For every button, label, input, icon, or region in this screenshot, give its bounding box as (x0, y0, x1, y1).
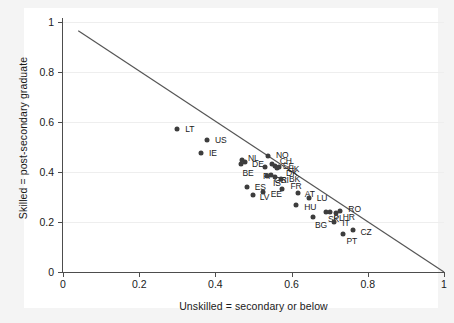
data-point[interactable] (175, 127, 180, 132)
data-point-label: IT (342, 218, 349, 228)
data-point[interactable] (306, 195, 311, 200)
y-tick-label: 0.4 (39, 166, 54, 178)
data-point-label: BE (243, 168, 254, 178)
data-point[interactable] (262, 165, 267, 170)
data-point[interactable] (310, 214, 315, 219)
data-point-label: LT (185, 124, 194, 134)
data-point[interactable] (244, 184, 249, 189)
x-tick (444, 273, 445, 277)
x-tick-label: 0.4 (208, 278, 223, 290)
chart-figure: Skilled = post-secondary graduate Unskil… (0, 0, 454, 323)
y-axis-title: Skilled = post-secondary graduate (17, 23, 29, 253)
plot-area: 00.20.40.60.81 00.20.40.60.81 LTUSIENONL… (63, 22, 444, 272)
data-point-label: BG (315, 220, 327, 230)
x-tick (139, 273, 140, 277)
regression-line (63, 22, 444, 272)
data-point[interactable] (265, 174, 270, 179)
data-point[interactable] (294, 203, 299, 208)
data-point-label: LU (317, 193, 328, 203)
y-tick-label: 0.8 (39, 66, 54, 78)
x-tick (292, 273, 293, 277)
data-point-label: RO (348, 204, 361, 214)
x-tick-label: 0.8 (360, 278, 375, 290)
data-point-label: HU (304, 202, 316, 212)
x-tick-label: 0.6 (284, 278, 299, 290)
data-point[interactable] (332, 220, 337, 225)
x-tick-label: 0.2 (132, 278, 147, 290)
x-tick-label: 1 (441, 278, 447, 290)
data-point[interactable] (272, 175, 277, 180)
x-axis-title: Unskilled = secondary or below (63, 300, 444, 312)
data-point[interactable] (198, 150, 203, 155)
data-point[interactable] (250, 193, 255, 198)
data-point-label: CZ (361, 227, 372, 237)
data-point[interactable] (265, 153, 270, 158)
y-tick (58, 122, 62, 123)
y-tick (58, 272, 62, 273)
data-point[interactable] (295, 190, 300, 195)
data-point[interactable] (278, 176, 283, 181)
y-tick (58, 172, 62, 173)
data-point[interactable] (243, 159, 248, 164)
data-point[interactable] (238, 161, 243, 166)
data-point[interactable] (350, 228, 355, 233)
x-tick (215, 273, 216, 277)
data-point[interactable] (260, 190, 265, 195)
data-point-label: US (215, 135, 227, 145)
y-tick-label: 1 (48, 16, 54, 28)
data-point[interactable] (280, 186, 285, 191)
data-point-label: PT (346, 236, 357, 246)
data-point[interactable] (205, 138, 210, 143)
data-point-label: IE (209, 148, 217, 158)
y-tick-label: 0.6 (39, 116, 54, 128)
y-tick-label: 0 (48, 266, 54, 278)
data-point[interactable] (338, 208, 343, 213)
y-tick (58, 22, 62, 23)
data-point[interactable] (328, 210, 333, 215)
y-tick (58, 222, 62, 223)
y-tick-label: 0.2 (39, 216, 54, 228)
x-tick (63, 273, 64, 277)
x-axis-line (62, 272, 445, 273)
data-point[interactable] (341, 232, 346, 237)
x-tick (368, 273, 369, 277)
y-tick (58, 72, 62, 73)
x-tick-label: 0 (60, 278, 66, 290)
data-point[interactable] (275, 166, 280, 171)
